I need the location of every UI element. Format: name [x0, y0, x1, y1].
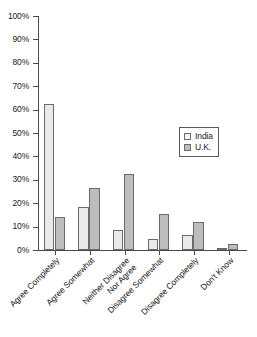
x-axis-tick: [90, 251, 91, 255]
bar-uk-3: [159, 214, 170, 250]
y-axis-tick-label: 60%: [0, 105, 29, 114]
y-axis-tick-label: 90%: [0, 35, 29, 44]
x-axis-line: [38, 250, 247, 251]
bar-uk-4: [193, 222, 204, 250]
y-axis-tick-label: 40%: [0, 152, 29, 161]
legend-item-uk[interactable]: U.K.: [184, 142, 213, 153]
bar-india-1: [78, 207, 89, 250]
legend-label-uk: U.K.: [195, 143, 211, 152]
y-axis-tick-label: 100%: [0, 12, 29, 21]
y-axis-tick-label: 50%: [0, 129, 29, 138]
legend-swatch-india-icon: [184, 133, 191, 140]
x-axis-tick: [55, 251, 56, 255]
bar-india-2: [113, 230, 124, 250]
y-axis-tick: [33, 250, 38, 251]
bar-uk-1: [89, 188, 100, 250]
legend-label-india: India: [195, 132, 213, 141]
y-axis-tick-label: 10%: [0, 222, 29, 231]
bar-uk-2: [124, 174, 135, 250]
bar-uk-0: [55, 217, 66, 250]
y-axis-tick-label: 0%: [0, 246, 29, 255]
bar-india-0: [44, 104, 55, 250]
chart-legend[interactable]: India U.K.: [179, 127, 219, 157]
y-axis-tick-label: 30%: [0, 175, 29, 184]
bar-uk-5: [228, 244, 239, 250]
legend-swatch-uk-icon: [184, 144, 191, 151]
bar-india-5: [217, 248, 228, 250]
legend-item-india[interactable]: India: [184, 131, 213, 142]
chart-figure: 100%90%80%70%60%50%40%30%20%10%0% Agree …: [0, 0, 257, 337]
y-axis-tick-label: 70%: [0, 82, 29, 91]
caption-sliver: [8, 331, 248, 336]
x-axis-tick: [229, 251, 230, 255]
x-axis-tick: [194, 251, 195, 255]
bar-india-3: [148, 239, 159, 250]
bar-india-4: [182, 235, 193, 250]
y-axis-tick-label: 20%: [0, 199, 29, 208]
y-axis-tick-label: 80%: [0, 58, 29, 67]
x-axis-tick: [125, 251, 126, 255]
x-axis-tick: [159, 251, 160, 255]
